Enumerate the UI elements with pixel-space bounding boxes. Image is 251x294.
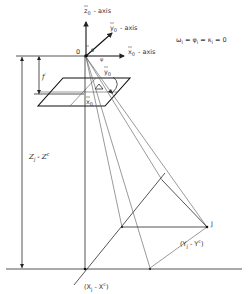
ground-mid-point (121, 226, 123, 228)
y-difference-label: (Yj- Yc) (180, 238, 204, 250)
point-j-label: J (210, 220, 213, 228)
image-point-triangle (95, 84, 103, 89)
y-axis (86, 33, 112, 56)
height-label: Zj- Zc (28, 151, 50, 163)
collinearity-diagram: z0- axis y0- axis x0- axis 0 θ ψ ωi = φi… (0, 0, 251, 294)
origin-label: 0 (76, 48, 80, 56)
angle-symbol-psi: ψ (100, 56, 104, 63)
ray-to-upper-point (86, 57, 162, 180)
ray-to-ground-point (86, 57, 150, 268)
focal-length-label: f (41, 73, 46, 81)
y-axis-label: y0- axis (110, 24, 138, 33)
height-arrow-top (20, 57, 24, 61)
ground-edge-upper (162, 180, 207, 227)
x-axis-label: x0- axis (128, 48, 156, 57)
z-axis-label: z0- axis (84, 7, 112, 16)
x-difference-label: (Xj- Xc) (84, 281, 109, 293)
point-j (206, 226, 209, 229)
rotation-equation: ωi = φi = κi = 0 (176, 36, 227, 46)
image-y-label: y0 (104, 68, 111, 77)
y-diff-edge (150, 227, 207, 268)
x-ground-point (149, 268, 151, 270)
focal-arrow-top (37, 56, 41, 60)
rotation-arc (112, 77, 117, 93)
height-arrow-bottom (20, 264, 24, 268)
angle-symbol-theta: θ (91, 47, 94, 53)
image-x-label: x0 (86, 98, 93, 107)
ground-x-diagonal (74, 173, 165, 285)
nadir-ground-point (84, 268, 87, 271)
